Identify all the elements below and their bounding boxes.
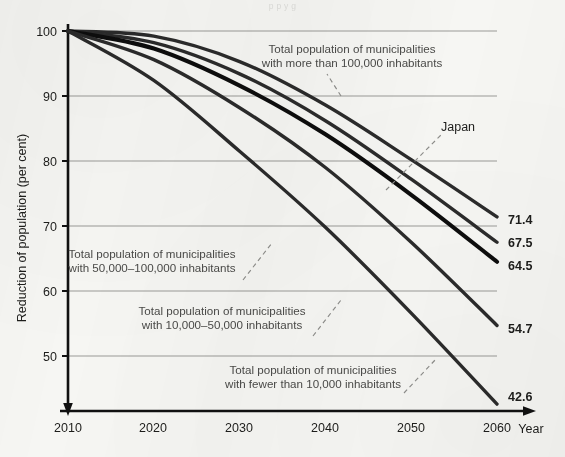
- y-tick-label-50: 50: [43, 350, 57, 364]
- y-axis-arrowhead: [63, 403, 73, 416]
- x-axis-title: Year: [518, 422, 543, 436]
- y-tick-label-80: 80: [43, 155, 57, 169]
- annot-10000-50000-line2: with 10,000–50,000 inhabitants: [141, 318, 303, 331]
- series-line-under-10000: [68, 31, 497, 404]
- leader-lines: [243, 74, 443, 393]
- leader-over-100000: [327, 74, 341, 96]
- y-tick-label-60: 60: [43, 285, 57, 299]
- y-tick-label-90: 90: [43, 90, 57, 104]
- annot-50000-100000-line2: with 50,000–100,000 inhabitants: [68, 261, 236, 274]
- population-reduction-line-chart: 100 90 80 70 60 50 Reduction of populati…: [0, 0, 565, 457]
- series-lines: [68, 31, 497, 404]
- y-axis: 100 90 80 70 60 50 Reduction of populati…: [15, 24, 73, 416]
- y-axis-title: Reduction of population (per cent): [15, 134, 29, 322]
- annot-over-100000-line2: with more than 100,000 inhabitants: [261, 56, 443, 69]
- endpoint-label-over-100000: 71.4: [508, 213, 532, 227]
- x-tick-label-2040: 2040: [311, 421, 339, 435]
- annot-10000-50000-line1: Total population of municipalities: [139, 304, 306, 317]
- leader-10000-50000: [313, 300, 341, 336]
- leader-50000-100000: [243, 243, 272, 280]
- x-tick-label-2020: 2020: [139, 421, 167, 435]
- endpoint-label-10000-50000: 54.7: [508, 322, 532, 336]
- x-tick-label-2030: 2030: [225, 421, 253, 435]
- endpoint-label-50000-100000: 67.5: [508, 236, 532, 250]
- annot-japan-label: Japan: [441, 120, 475, 134]
- cropped-title-remnant: p p y g: [0, 0, 565, 12]
- x-tick-label-2010: 2010: [54, 421, 82, 435]
- y-tick-label-100: 100: [36, 25, 57, 39]
- x-tick-label-2050: 2050: [397, 421, 425, 435]
- annotations: Total population of municipalities with …: [68, 42, 476, 390]
- x-axis: 2010 2020 2030 2040 2050 2060 Year: [54, 406, 544, 436]
- endpoint-label-under-10000: 42.6: [508, 390, 532, 404]
- annot-under-10000-line1: Total population of municipalities: [230, 363, 397, 376]
- leader-under-10000: [404, 359, 436, 393]
- x-tick-label-2060: 2060: [483, 421, 511, 435]
- annot-over-100000-line1: Total population of municipalities: [269, 42, 436, 55]
- annot-under-10000-line2: with fewer than 10,000 inhabitants: [224, 377, 401, 390]
- endpoint-labels: 71.4 67.5 64.5 54.7 42.6: [508, 213, 532, 404]
- x-axis-arrowhead: [523, 406, 536, 416]
- endpoint-label-japan: 64.5: [508, 259, 532, 273]
- y-tick-label-70: 70: [43, 220, 57, 234]
- series-line-10000-50000: [68, 31, 497, 325]
- annot-50000-100000-line1: Total population of municipalities: [69, 247, 236, 260]
